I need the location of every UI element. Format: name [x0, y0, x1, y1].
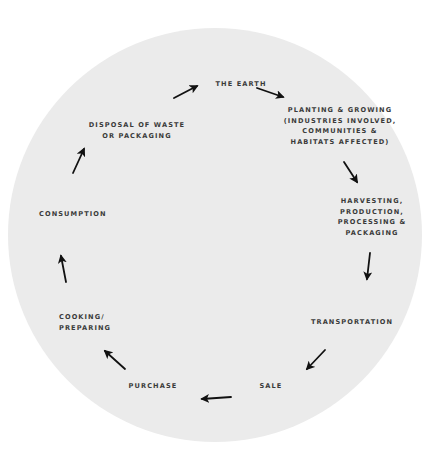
stage-cooking-preparing: COOKING/ PREPARING: [59, 312, 111, 333]
stage-harvesting-production: HARVESTING, PRODUCTION, PROCESSING & PAC…: [338, 196, 407, 238]
stage-consumption: CONSUMPTION: [39, 209, 107, 220]
stage-planting-growing: PLANTING & GROWING (INDUSTRIES INVOLVED,…: [284, 105, 397, 147]
stage-purchase: PURCHASE: [129, 381, 178, 392]
stage-disposal: DISPOSAL OF WASTE OR PACKAGING: [89, 120, 185, 141]
stage-transportation: TRANSPORTATION: [311, 317, 393, 328]
stage-sale: SALE: [260, 381, 283, 392]
stage-the-earth: THE EARTH: [215, 79, 266, 90]
